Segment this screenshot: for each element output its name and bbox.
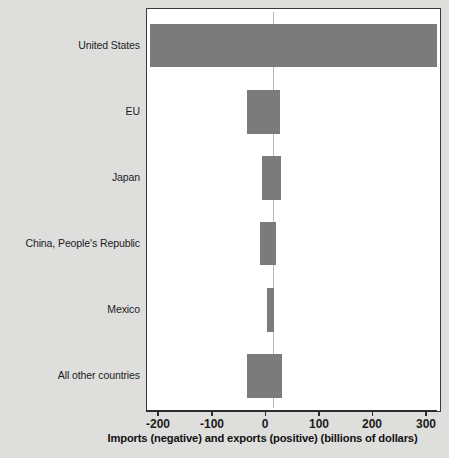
x-axis-title-wrapper: Imports (negative) and exports (positive… — [0, 432, 449, 444]
bar-all-other-countries — [247, 354, 281, 398]
x-axis-title: Imports (negative) and exports (positive… — [31, 432, 417, 444]
x-axis-tick-100 — [318, 410, 320, 416]
y-axis-label-united-states: United States — [78, 39, 140, 51]
x-axis-tick-200 — [372, 410, 374, 416]
bar-china — [260, 222, 276, 266]
x-axis-tick-label--100: -100 — [200, 417, 224, 431]
x-axis-tick--200 — [157, 410, 159, 416]
y-axis-label-mexico: Mexico — [107, 303, 140, 315]
zero-reference-line — [273, 12, 274, 408]
bar-japan — [262, 156, 280, 200]
x-axis-tick--100 — [211, 410, 213, 416]
y-axis-label-japan: Japan — [112, 171, 140, 183]
bar-eu — [247, 90, 280, 134]
y-axis-label-all-other-countries: All other countries — [58, 369, 140, 381]
y-axis-label-china: China, People's Republic — [25, 237, 140, 249]
y-axis-category-labels: United States EU Japan China, People's R… — [0, 12, 140, 408]
x-axis-tick-label-0: 0 — [262, 417, 269, 431]
x-axis-tick-300 — [425, 410, 427, 416]
x-axis-tick-label-300: 300 — [416, 417, 436, 431]
plot-area — [150, 12, 437, 408]
bar-united-states — [150, 24, 437, 68]
x-axis-tick-label--200: -200 — [146, 417, 170, 431]
x-axis-tick-label-200: 200 — [362, 417, 382, 431]
x-axis-line — [150, 410, 437, 412]
x-axis-tick-0 — [265, 410, 267, 416]
x-axis-tick-label-100: 100 — [309, 417, 329, 431]
chart-figure: United States EU Japan China, People's R… — [0, 0, 449, 458]
y-axis-label-eu: EU — [126, 105, 140, 117]
bar-mexico — [267, 288, 275, 332]
